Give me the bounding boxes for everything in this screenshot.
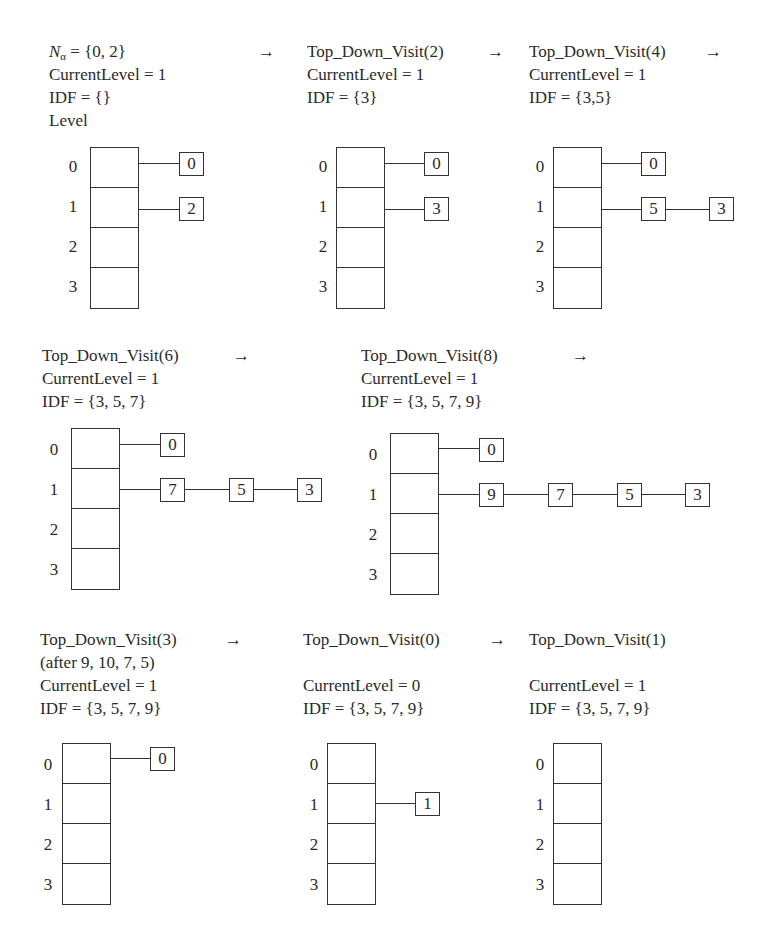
- list-node: 3: [297, 478, 322, 502]
- list-node: 7: [160, 478, 185, 502]
- level-cell: [63, 824, 110, 864]
- level-index: 2: [66, 237, 80, 257]
- level-cell: [554, 188, 601, 228]
- list-link: [439, 494, 479, 495]
- level-index: 2: [47, 520, 61, 540]
- level-cell: [554, 268, 601, 308]
- step-title: Top_Down_Visit(1): [529, 628, 666, 651]
- step-note: (after 9, 10, 7, 5): [40, 651, 155, 674]
- level-index: 3: [41, 875, 55, 895]
- na-set-title: Nα = {0, 2}: [49, 40, 126, 68]
- idf-set: IDF = {3, 5, 7, 9}: [303, 697, 424, 720]
- level-index: 3: [307, 875, 321, 895]
- list-node: 5: [229, 478, 254, 502]
- level-index: 3: [66, 277, 80, 297]
- level-table: [71, 428, 120, 590]
- level-table: [553, 147, 602, 309]
- level-cell: [63, 744, 110, 784]
- level-cell: [63, 864, 110, 904]
- current-level: CurrentLevel = 1: [40, 674, 157, 697]
- panel-initial: Nα = {0, 2} CurrentLevel = 1 IDF = {} Le…: [0, 0, 759, 949]
- current-level: CurrentLevel = 1: [49, 63, 166, 86]
- step-title: Top_Down_Visit(6): [42, 344, 179, 367]
- list-node: 0: [424, 152, 449, 176]
- list-link: [111, 758, 150, 759]
- level-table: [390, 433, 439, 595]
- arrow-right-icon: →: [487, 40, 504, 63]
- idf-set: IDF = {3,5}: [529, 86, 612, 109]
- level-cell: [554, 744, 601, 784]
- list-link: [439, 448, 479, 449]
- level-index: 0: [307, 755, 321, 775]
- level-index: 1: [366, 485, 380, 505]
- level-index: 1: [66, 197, 80, 217]
- list-node: 5: [617, 483, 642, 507]
- list-link: [602, 209, 642, 210]
- level-index: 3: [533, 875, 547, 895]
- current-level: CurrentLevel = 1: [529, 674, 646, 697]
- panel-visit-3: Top_Down_Visit(3) → (after 9, 10, 7, 5) …: [0, 0, 759, 949]
- arrow-right-icon: →: [258, 40, 275, 63]
- level-index: 0: [47, 440, 61, 460]
- level-cell: [91, 148, 138, 188]
- level-cell: [72, 509, 119, 549]
- level-cell: [554, 148, 601, 188]
- level-index: 2: [533, 835, 547, 855]
- na-value: = {0, 2}: [66, 42, 126, 61]
- panel-visit-2: Top_Down_Visit(2) → CurrentLevel = 1 IDF…: [0, 0, 759, 949]
- level-cell: [391, 434, 438, 474]
- level-cell: [337, 148, 384, 188]
- level-cell: [72, 469, 119, 509]
- arrow-right-icon: →: [572, 344, 589, 367]
- level-index: 1: [41, 795, 55, 815]
- level-index: 3: [366, 565, 380, 585]
- list-node: 0: [641, 152, 666, 176]
- level-cell: [72, 549, 119, 589]
- level-index: 2: [316, 237, 330, 257]
- list-link: [139, 209, 179, 210]
- level-index: 0: [533, 755, 547, 775]
- level-cell: [328, 864, 375, 904]
- level-index: 1: [533, 795, 547, 815]
- list-link: [602, 163, 642, 164]
- arrow-right-icon: →: [225, 628, 242, 651]
- idf-set: IDF = {3, 5, 7, 9}: [529, 697, 650, 720]
- idf-set: IDF = {}: [49, 86, 111, 109]
- list-node: 0: [179, 152, 204, 176]
- list-link: [665, 209, 709, 210]
- level-cell: [391, 514, 438, 554]
- level-index: 3: [316, 277, 330, 297]
- level-index: 0: [366, 445, 380, 465]
- level-cell: [391, 554, 438, 594]
- level-cell: [554, 228, 601, 268]
- list-link: [120, 444, 160, 445]
- list-link: [572, 494, 617, 495]
- list-link: [139, 163, 179, 164]
- arrow-right-icon: →: [233, 344, 250, 367]
- step-title: Top_Down_Visit(3): [40, 628, 177, 651]
- level-index: 2: [533, 237, 547, 257]
- na-subscript: α: [60, 50, 66, 62]
- arrow-right-icon: →: [705, 40, 722, 63]
- list-link: [385, 163, 425, 164]
- level-table: [553, 743, 602, 905]
- level-cell: [337, 188, 384, 228]
- level-table: [62, 743, 111, 905]
- list-node: 0: [479, 438, 504, 462]
- level-cell: [91, 228, 138, 268]
- level-cell: [63, 784, 110, 824]
- step-title: Top_Down_Visit(8): [361, 344, 498, 367]
- list-node: 3: [709, 197, 734, 221]
- level-cell: [337, 268, 384, 308]
- panel-visit-6: Top_Down_Visit(6) → CurrentLevel = 1 IDF…: [0, 0, 759, 949]
- list-node: 3: [424, 197, 449, 221]
- level-index: 0: [66, 157, 80, 177]
- level-index: 1: [307, 795, 321, 815]
- list-node: 0: [150, 747, 175, 771]
- level-index: 3: [47, 560, 61, 580]
- list-node: 1: [415, 792, 440, 816]
- current-level: CurrentLevel = 1: [529, 63, 646, 86]
- level-cell: [554, 784, 601, 824]
- list-link: [376, 803, 415, 804]
- level-cell: [328, 824, 375, 864]
